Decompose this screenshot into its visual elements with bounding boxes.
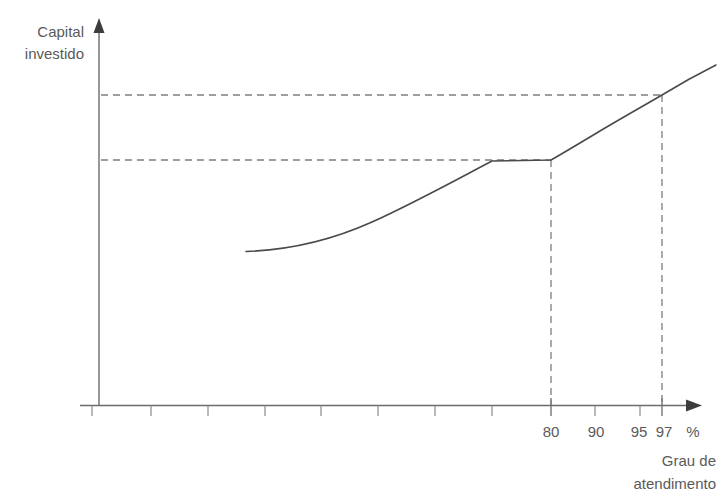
x-axis-caption-line2: atendimento: [633, 475, 716, 492]
capital-investment-curve: [246, 65, 716, 252]
x-tick-label-90: 90: [588, 423, 605, 440]
x-tick-label-97: 97: [656, 423, 673, 440]
guide-lines-80: [101, 160, 551, 405]
y-axis-arrow-icon: [94, 18, 105, 33]
x-axis-caption-line1: Grau de: [662, 452, 716, 469]
x-axis-arrow-icon: [686, 400, 702, 412]
investment-service-level-chart: Capital investido 80 90 95 97 % Grau de …: [0, 0, 728, 504]
x-tick-label-95: 95: [631, 423, 648, 440]
y-axis-label-line2: investido: [25, 45, 84, 62]
guide-lines-97: [101, 95, 662, 405]
x-axis-tick-marks: [92, 398, 662, 416]
x-axis-percent-label: %: [686, 423, 699, 440]
x-tick-label-80: 80: [543, 423, 560, 440]
chart-container: Capital investido 80 90 95 97 % Grau de …: [0, 0, 728, 504]
y-axis-label-line1: Capital: [37, 23, 84, 40]
